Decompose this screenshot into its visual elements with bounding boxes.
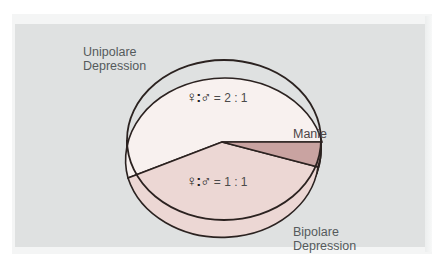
- label-bipolare: Bipolare Depression: [293, 225, 356, 253]
- ratio-unipolare: ♀:♂ = 2 : 1: [186, 88, 248, 105]
- ratio-bipolare: ♀:♂ = 1 : 1: [186, 172, 248, 189]
- label-manie: Manie: [293, 127, 327, 141]
- pie-chart: [0, 0, 448, 271]
- label-unipolare: Unipolare Depression: [83, 45, 146, 73]
- female-male-symbols: ♀:♂: [186, 88, 211, 105]
- female-male-symbols: ♀:♂: [186, 172, 211, 189]
